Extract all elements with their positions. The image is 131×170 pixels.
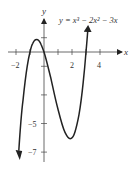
x-axis: x −2 2 4 bbox=[8, 47, 128, 70]
x-tick-label-2: 2 bbox=[70, 61, 74, 70]
curve-arrow-down-icon bbox=[16, 150, 23, 160]
y-axis-label: y bbox=[41, 6, 46, 16]
x-tick-label-neg2: −2 bbox=[11, 61, 20, 70]
function-curve bbox=[19, 27, 88, 151]
y-tick-label-neg5: −5 bbox=[28, 120, 37, 129]
y-axis: y −5 −7 bbox=[28, 6, 47, 162]
x-axis-label: x bbox=[123, 47, 128, 57]
cubic-function-graph: x −2 2 4 y −5 −7 y = x³ − 2x² − 3x bbox=[0, 0, 131, 170]
x-tick-label-4: 4 bbox=[97, 61, 101, 70]
equation-label: y = x³ − 2x² − 3x bbox=[58, 15, 118, 25]
y-tick-label-neg7: −7 bbox=[28, 148, 37, 157]
